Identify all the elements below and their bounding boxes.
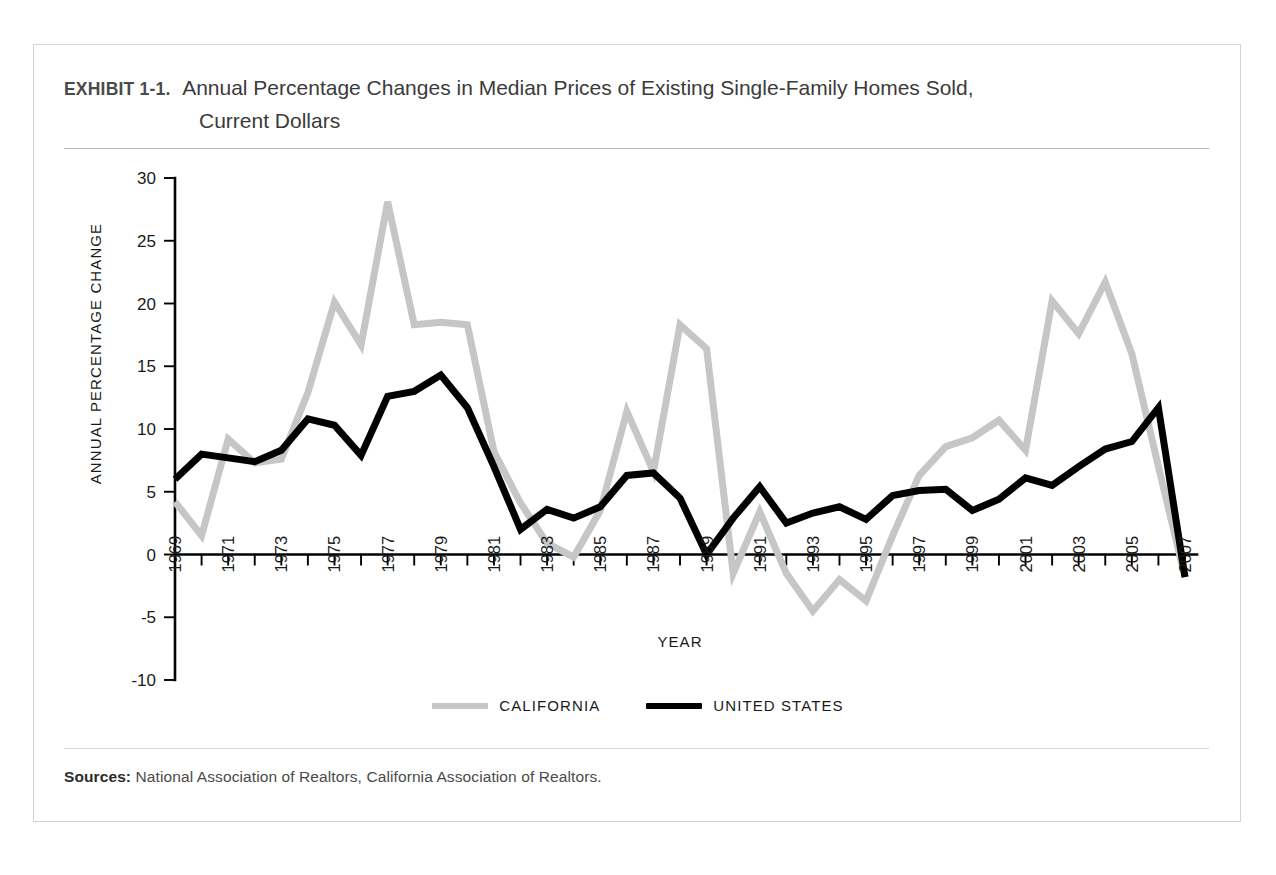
- sources-divider: [64, 748, 1209, 749]
- legend-label-california: CALIFORNIA: [499, 697, 600, 714]
- exhibit-title-line-2: Current Dollars: [64, 105, 1204, 136]
- chart-legend: CALIFORNIA UNITED STATES: [0, 697, 1276, 714]
- title-divider: [64, 148, 1209, 149]
- legend-label-united-states: UNITED STATES: [713, 697, 843, 714]
- exhibit-number-label: EXHIBIT 1-1.: [64, 79, 170, 99]
- sources-note: Sources: National Association of Realtor…: [64, 768, 602, 786]
- legend-item-united-states: UNITED STATES: [646, 697, 843, 714]
- exhibit-title-line-1: EXHIBIT 1-1. Annual Percentage Changes i…: [64, 72, 1204, 105]
- legend-item-california: CALIFORNIA: [432, 697, 600, 714]
- exhibit-title-block: EXHIBIT 1-1. Annual Percentage Changes i…: [64, 72, 1204, 136]
- exhibit-page: EXHIBIT 1-1. Annual Percentage Changes i…: [0, 0, 1276, 875]
- exhibit-title-text-1: Annual Percentage Changes in Median Pric…: [182, 76, 973, 99]
- sources-text: National Association of Realtors, Califo…: [131, 768, 602, 785]
- sources-label: Sources:: [64, 768, 131, 785]
- legend-swatch-california: [432, 703, 488, 709]
- legend-swatch-united-states: [646, 703, 702, 709]
